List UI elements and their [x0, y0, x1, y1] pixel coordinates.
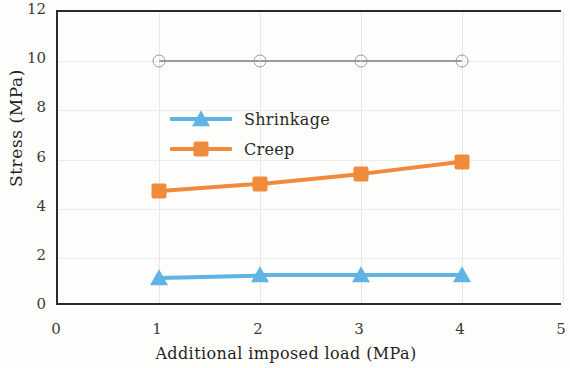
data-line-segment	[159, 182, 260, 193]
legend-label: Shrinkage	[244, 110, 330, 129]
x-axis-title: Additional imposed load (MPa)	[56, 344, 516, 363]
data-point-marker	[453, 266, 471, 282]
data-point-marker	[253, 177, 268, 192]
data-point-marker	[251, 266, 269, 282]
legend-item[interactable]: Creep	[170, 134, 330, 164]
square-marker	[194, 142, 209, 157]
legend-swatch	[170, 109, 232, 129]
legend-item[interactable]: Shrinkage	[170, 104, 330, 134]
data-line-segment	[260, 172, 361, 186]
data-point-marker	[354, 167, 369, 182]
data-line-segment	[260, 60, 361, 62]
triangle-marker	[192, 110, 210, 126]
data-point-marker	[152, 184, 167, 199]
data-point-marker	[456, 55, 469, 68]
x-tick-label: 3	[339, 322, 379, 337]
data-line-segment	[361, 273, 462, 277]
x-tick-label: 5	[541, 322, 570, 337]
vertical-gridline	[563, 12, 564, 303]
data-point-marker	[153, 55, 166, 68]
data-line-segment	[361, 60, 462, 62]
x-tick-label: 0	[36, 322, 76, 337]
data-point-marker	[455, 154, 470, 169]
chart-legend: ShrinkageCreep	[170, 104, 330, 164]
x-tick-label: 2	[238, 322, 278, 337]
data-line-segment	[260, 273, 361, 277]
legend-swatch	[170, 139, 232, 159]
x-tick-label: 1	[137, 322, 177, 337]
data-line-segment	[159, 273, 260, 279]
legend-label: Creep	[244, 140, 295, 159]
data-point-marker	[150, 269, 168, 285]
x-tick-label: 4	[440, 322, 480, 337]
data-point-marker	[355, 55, 368, 68]
data-line-segment	[159, 60, 260, 62]
plot-area: ShrinkageCreep	[56, 10, 561, 305]
data-line-segment	[361, 160, 462, 176]
data-point-marker	[254, 55, 267, 68]
data-point-marker	[352, 266, 370, 282]
